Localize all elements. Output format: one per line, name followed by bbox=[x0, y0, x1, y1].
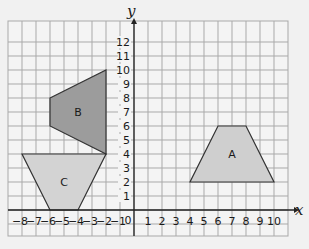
x-tick-label: 1 bbox=[145, 215, 152, 228]
y-tick-label: 12 bbox=[116, 36, 130, 49]
y-tick-label: 8 bbox=[123, 92, 130, 105]
x-tick-label: 9 bbox=[257, 215, 264, 228]
y-tick-label: 3 bbox=[123, 162, 130, 175]
shape-label: B bbox=[74, 106, 82, 119]
shape-label: C bbox=[60, 176, 68, 189]
y-axis-label: y bbox=[126, 2, 136, 20]
shape-label: A bbox=[228, 148, 236, 161]
x-tick-label: 3 bbox=[173, 215, 180, 228]
x-tick-label: 10 bbox=[267, 215, 281, 228]
x-tick-label: 7 bbox=[229, 215, 236, 228]
x-tick-label: 2 bbox=[159, 215, 166, 228]
x-axis-label: x bbox=[295, 201, 304, 219]
y-tick-label: 5 bbox=[123, 134, 130, 147]
x-tick-label: 6 bbox=[215, 215, 222, 228]
y-tick-label: 9 bbox=[123, 78, 130, 91]
y-tick-label: 7 bbox=[123, 106, 130, 119]
x-tick-label: 5 bbox=[201, 215, 208, 228]
y-tick-label: 1 bbox=[123, 190, 130, 203]
coordinate-grid-diagram: ABC xy −8−7−6−5−4−3−2−112345678910012345… bbox=[0, 0, 309, 249]
y-tick-label: 4 bbox=[123, 148, 130, 161]
y-tick-label: 11 bbox=[116, 50, 130, 63]
origin-label: 0 bbox=[125, 214, 132, 227]
y-tick-label: 2 bbox=[123, 176, 130, 189]
x-tick-label: 8 bbox=[243, 215, 250, 228]
x-tick-label: 4 bbox=[187, 215, 194, 228]
y-tick-label: 10 bbox=[116, 64, 130, 77]
y-tick-label: 6 bbox=[123, 120, 130, 133]
